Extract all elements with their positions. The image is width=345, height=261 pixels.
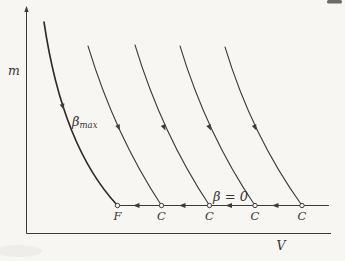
point-label-f-0: F xyxy=(113,209,123,223)
figure-svg: FCCCCmVβmaxβ = 0 xyxy=(0,0,345,261)
point-marker-c-4 xyxy=(300,203,304,207)
point-label-c-1: C xyxy=(157,209,166,223)
point-label-c-2: C xyxy=(205,209,214,223)
point-marker-f-0 xyxy=(115,203,119,207)
beta-max-curve xyxy=(44,22,118,206)
book-figure-page: FCCCCmVβmaxβ = 0 xyxy=(0,0,345,261)
phase-line-arrow-icon-3 xyxy=(272,203,279,208)
beta-curve-4 xyxy=(180,46,255,206)
phase-line-arrow-icon-0 xyxy=(133,203,140,208)
point-label-c-4: C xyxy=(298,209,307,223)
beta-max-label: βmax xyxy=(71,114,98,130)
point-marker-c-2 xyxy=(207,203,211,207)
point-marker-c-3 xyxy=(253,203,257,207)
y-axis-label: m xyxy=(8,63,20,78)
beta-zero-label: β = 0 xyxy=(212,189,248,204)
x-axis-label: V xyxy=(276,238,287,253)
curve-direction-arrow-icon-0 xyxy=(60,103,66,110)
paper-smudge xyxy=(0,245,42,257)
point-marker-c-1 xyxy=(159,203,163,207)
phase-line-arrow-icon-1 xyxy=(179,203,186,208)
point-label-c-3: C xyxy=(251,209,260,223)
scan-artifact xyxy=(327,0,342,4)
curve-direction-arrow-icon-1 xyxy=(115,124,122,131)
y-axis-arrow-icon xyxy=(24,6,28,12)
beta-curve-5 xyxy=(225,47,302,206)
